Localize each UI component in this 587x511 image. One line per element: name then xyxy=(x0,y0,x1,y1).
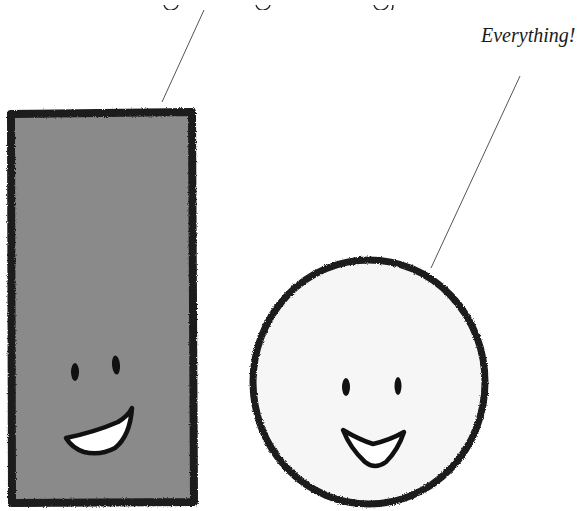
circle-body xyxy=(253,260,485,504)
circle-character xyxy=(253,260,485,504)
leader-line-rectangle xyxy=(162,10,204,102)
characters-drawing xyxy=(0,0,587,511)
rectangle-left-eye xyxy=(71,363,79,381)
illustration-canvas: Everything! xyxy=(0,0,587,511)
leader-line-circle xyxy=(431,76,520,268)
circle-left-eye xyxy=(342,378,350,396)
rectangle-character xyxy=(11,112,194,503)
circle-right-eye xyxy=(395,377,402,395)
